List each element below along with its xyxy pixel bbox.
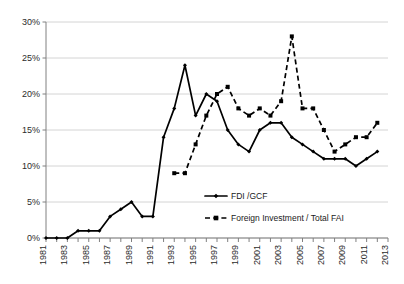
y-tick-label-10: 10% <box>22 161 40 171</box>
x-tick-label-2013: 2013 <box>380 245 390 265</box>
x-tick-label-1987: 1987 <box>102 245 112 265</box>
legend-marker-2 <box>214 216 219 221</box>
y-tick-label-30: 30% <box>22 17 40 27</box>
data-point-2004 <box>290 34 294 38</box>
x-tick-label-1993: 1993 <box>166 245 176 265</box>
data-point-2001 <box>258 106 262 110</box>
data-point-2002 <box>268 114 272 118</box>
data-point-2012 <box>375 121 379 125</box>
data-point-2000 <box>247 114 251 118</box>
x-tick-label-2009: 2009 <box>337 245 347 265</box>
x-tick-label-1983: 1983 <box>59 245 69 265</box>
data-point-2003 <box>279 99 283 103</box>
x-tick-label-2005: 2005 <box>295 245 305 265</box>
data-point-2011 <box>365 135 369 139</box>
y-tick-label-5: 5% <box>27 197 40 207</box>
x-tick-label-1991: 1991 <box>145 245 155 265</box>
x-tick-label-2007: 2007 <box>316 245 326 265</box>
x-tick-label-1985: 1985 <box>81 245 91 265</box>
data-point-1997 <box>215 92 219 96</box>
x-tick-label-2001: 2001 <box>252 245 262 265</box>
data-point-2005 <box>301 106 305 110</box>
x-tick-label-2011: 2011 <box>359 245 369 264</box>
x-tick-label-1999: 1999 <box>230 245 240 265</box>
legend-label-2: Foreign Investment / Total FAI <box>231 213 344 223</box>
y-tick-label-25: 25% <box>22 53 40 63</box>
x-tick-label-1981: 1981 <box>38 245 48 265</box>
y-tick-label-20: 20% <box>22 89 40 99</box>
data-point-2010 <box>354 135 358 139</box>
data-point-1993 <box>172 171 176 175</box>
y-tick-label-0: 0% <box>27 233 40 243</box>
data-point-2009 <box>343 142 347 146</box>
data-point-2006 <box>311 106 315 110</box>
x-tick-label-1995: 1995 <box>188 245 198 265</box>
x-tick-label-1989: 1989 <box>124 245 134 265</box>
data-point-1998 <box>226 85 230 89</box>
data-point-1994 <box>183 171 187 175</box>
y-tick-label-15: 15% <box>22 125 40 135</box>
plot-background <box>0 0 404 284</box>
data-point-1995 <box>194 142 198 146</box>
legend-label-1: FDI /GCF <box>231 191 267 201</box>
chart-container: 0%5%10%15%20%25%30% 19811983198519871989… <box>0 0 404 284</box>
x-tick-label-2003: 2003 <box>273 245 283 265</box>
x-tick-label-1997: 1997 <box>209 245 219 265</box>
data-point-1999 <box>236 106 240 110</box>
data-point-2008 <box>333 150 337 154</box>
data-point-1996 <box>204 114 208 118</box>
line-chart: 0%5%10%15%20%25%30% 19811983198519871989… <box>0 0 404 284</box>
data-point-2007 <box>322 128 326 132</box>
